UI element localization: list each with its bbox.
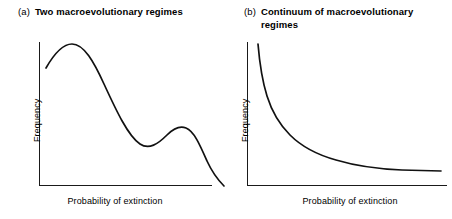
panel-b-ylabel: Frequency	[240, 99, 250, 142]
panel-a-ylabel: Frequency	[32, 99, 42, 142]
figure-container: (a) Two macroevolutionary regimes Freque…	[0, 0, 452, 219]
panel-b-axes	[248, 42, 448, 186]
panel-b: (b) Continuum of macroevolutionary regim…	[226, 0, 452, 219]
panel-b-curve-decay	[258, 44, 441, 171]
panel-b-plot	[226, 0, 452, 219]
panel-a-curve-bimodal	[46, 44, 224, 186]
panel-a-axes	[40, 42, 213, 186]
panel-a-xlabel: Probability of extinction	[20, 196, 210, 206]
panel-b-xlabel: Probability of extinction	[252, 196, 448, 206]
panel-a: (a) Two macroevolutionary regimes Freque…	[0, 0, 226, 219]
